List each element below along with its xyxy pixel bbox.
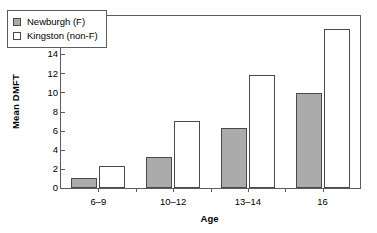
legend-item-label: Kingston (non-F)	[27, 31, 98, 41]
x-axis-tick-mark	[98, 188, 99, 192]
bar	[146, 157, 172, 188]
bar	[99, 166, 125, 188]
bar	[174, 121, 200, 188]
x-axis-tick-label: 13–14	[235, 196, 261, 207]
x-axis-tick-mark	[248, 188, 249, 192]
bar-chart-figure: Mean DMFT 024681012141618 6–910–1213–141…	[0, 0, 377, 233]
y-axis-tick-mark	[61, 54, 65, 55]
y-axis-tick-label: 6	[53, 126, 61, 136]
y-axis-tick-mark	[61, 131, 65, 132]
x-axis-tick-mark	[173, 188, 174, 192]
y-axis-tick-label: 2	[53, 164, 61, 174]
x-axis-tick-mark	[211, 188, 212, 192]
bar	[71, 178, 97, 188]
x-axis-tick-label: 6–9	[90, 196, 106, 207]
y-axis-tick-label: 4	[53, 145, 61, 155]
y-axis-tick-label: 0	[53, 183, 61, 193]
x-axis-tick-label: 16	[317, 196, 328, 207]
legend-swatch-icon	[13, 32, 21, 40]
x-axis-title: Age	[60, 213, 359, 224]
bar	[249, 75, 275, 188]
y-axis-tick-label: 14	[47, 49, 61, 59]
y-axis-tick-label: 8	[53, 107, 61, 117]
y-axis-tick-label: 12	[47, 69, 61, 79]
y-axis-tick-mark	[61, 169, 65, 170]
x-axis-tick-mark	[136, 188, 137, 192]
y-axis-title-text: Mean DMFT	[11, 73, 22, 128]
legend-item: Newburgh (F)	[13, 15, 98, 29]
legend-item: Kingston (non-F)	[13, 29, 98, 43]
legend-swatch-icon	[13, 18, 21, 26]
bar	[221, 128, 247, 188]
y-axis-tick-mark	[61, 188, 65, 189]
x-axis-tick-label: 10–12	[160, 196, 186, 207]
y-axis-tick-label: 10	[47, 88, 61, 98]
bar	[296, 93, 322, 188]
y-axis-tick-mark	[61, 73, 65, 74]
y-axis-tick-mark	[61, 92, 65, 93]
legend-item-label: Newburgh (F)	[27, 17, 85, 27]
chart-legend: Newburgh (F)Kingston (non-F)	[7, 10, 107, 48]
y-axis-tick-mark	[61, 112, 65, 113]
x-axis-tick-mark	[285, 188, 286, 192]
x-axis-tick-mark	[323, 188, 324, 192]
y-axis-tick-mark	[61, 150, 65, 151]
bar	[324, 29, 350, 188]
